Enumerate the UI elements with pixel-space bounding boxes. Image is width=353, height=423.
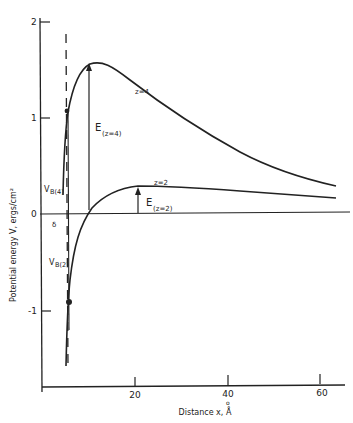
x-ticks	[135, 374, 320, 386]
label-e-z2: E	[146, 197, 152, 208]
label-vb4-sub: B(4)	[50, 188, 64, 196]
svg-text:-1: -1	[28, 306, 37, 316]
x-axis	[42, 385, 345, 387]
svg-text:2: 2	[31, 17, 37, 27]
point-vb4	[65, 109, 70, 114]
label-e-z4: E	[95, 122, 101, 133]
arrowhead-e-z2	[135, 187, 141, 195]
svg-text:0: 0	[31, 209, 37, 219]
svg-text:20: 20	[129, 390, 141, 400]
label-z2: z=2	[154, 179, 168, 187]
zero-line	[40, 212, 350, 214]
label-vb2-sub: B(2)	[55, 261, 69, 269]
svg-text:1: 1	[31, 113, 37, 123]
label-e-z4-sub: (z=4)	[102, 130, 122, 138]
svg-text:60: 60	[316, 388, 328, 398]
y-axis-label: Potential energy V, ergs/cm²	[9, 188, 18, 302]
chart: 2 1 0 -1 20 40 60 Distance x, Å o Potent…	[0, 0, 353, 423]
x-axis-label: Distance x, Å	[179, 406, 232, 417]
point-vb2	[66, 299, 72, 305]
y-axis	[40, 18, 42, 392]
svg-text:40: 40	[222, 389, 234, 399]
curve-z4	[63, 63, 336, 195]
label-z4: z=4	[135, 88, 150, 96]
label-delta: δ	[52, 221, 56, 229]
x-unit-ring: o	[226, 399, 230, 406]
y-tick-labels: 2 1 0 -1	[28, 17, 37, 316]
label-e-z2-sub: (z=2)	[153, 205, 173, 213]
